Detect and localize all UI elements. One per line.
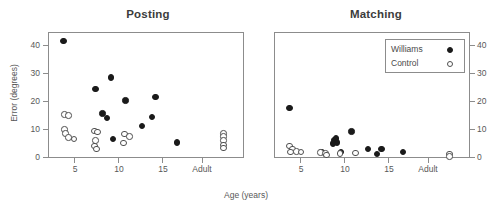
data-point-williams-matching bbox=[286, 105, 293, 112]
data-point-williams-matching bbox=[330, 140, 337, 147]
ytick-mark-20-posting bbox=[43, 101, 48, 102]
data-point-williams-posting bbox=[174, 139, 181, 146]
legend-marker-open-circle-icon bbox=[447, 61, 453, 67]
ytick-label-40-matching: 40 bbox=[477, 40, 498, 50]
xtick-label-15-matching: 15 bbox=[369, 164, 409, 174]
xtick-label-10-posting: 10 bbox=[99, 164, 139, 174]
ytick-mark-10-matching bbox=[470, 129, 475, 130]
legend: Williams Control bbox=[385, 39, 465, 73]
data-point-williams-matching bbox=[348, 128, 355, 135]
plot-frame-posting bbox=[48, 32, 244, 158]
panel-title-posting: Posting bbox=[68, 8, 228, 20]
xtick-label-adult-posting: Adult bbox=[182, 164, 222, 174]
ytick-label-0-matching: 0 bbox=[477, 152, 498, 162]
xtick-mark-5-matching bbox=[300, 158, 301, 163]
data-point-williams-matching bbox=[365, 146, 372, 153]
data-point-williams-posting bbox=[152, 94, 159, 101]
ytick-mark-30-posting bbox=[43, 73, 48, 74]
data-point-williams-posting bbox=[122, 97, 129, 104]
xtick-mark-15-posting bbox=[162, 158, 163, 163]
data-point-williams-posting bbox=[92, 86, 99, 93]
ytick-mark-0-posting bbox=[43, 157, 48, 158]
data-point-williams-posting bbox=[60, 38, 67, 45]
data-point-control-matching bbox=[323, 152, 330, 159]
xtick-label-5-posting: 5 bbox=[55, 164, 95, 174]
data-point-control-matching bbox=[446, 153, 453, 160]
ytick-label-10-posting: 10 bbox=[18, 124, 40, 134]
data-point-control-posting bbox=[126, 133, 133, 140]
xtick-label-15-posting: 15 bbox=[143, 164, 183, 174]
ytick-label-20-posting: 20 bbox=[18, 96, 40, 106]
x-axis-label: Age (years) bbox=[196, 190, 296, 200]
xtick-mark-5-posting bbox=[74, 158, 75, 163]
ytick-label-20-matching: 20 bbox=[477, 96, 498, 106]
ytick-mark-20-matching bbox=[470, 101, 475, 102]
ytick-mark-30-matching bbox=[470, 73, 475, 74]
xtick-label-adult-matching: Adult bbox=[408, 164, 448, 174]
data-point-williams-posting bbox=[139, 123, 146, 130]
legend-entry-control: Control bbox=[391, 57, 461, 71]
legend-label-control: Control bbox=[391, 58, 418, 68]
data-point-control-posting bbox=[120, 140, 127, 147]
xtick-label-5-matching: 5 bbox=[281, 164, 321, 174]
data-point-control-posting bbox=[94, 129, 101, 136]
xtick-mark-10-posting bbox=[118, 158, 119, 163]
data-point-control-posting bbox=[93, 146, 100, 153]
legend-entry-williams: Williams bbox=[391, 43, 461, 57]
ytick-mark-0-matching bbox=[470, 157, 475, 158]
ytick-mark-40-posting bbox=[43, 45, 48, 46]
xtick-label-10-matching: 10 bbox=[325, 164, 365, 174]
ytick-mark-40-matching bbox=[470, 45, 475, 46]
data-point-control-matching bbox=[337, 150, 344, 157]
xtick-mark-10-matching bbox=[344, 158, 345, 163]
data-point-williams-posting bbox=[108, 74, 115, 81]
data-point-control-posting bbox=[220, 145, 227, 152]
xtick-mark-adult-posting bbox=[202, 158, 203, 163]
data-point-control-posting bbox=[65, 112, 72, 119]
legend-label-williams: Williams bbox=[391, 44, 423, 54]
ytick-label-0-posting: 0 bbox=[18, 152, 40, 162]
data-point-williams-matching bbox=[378, 146, 385, 153]
panel-title-matching: Matching bbox=[296, 8, 456, 20]
legend-marker-filled-circle-icon bbox=[447, 47, 453, 53]
xtick-mark-adult-matching bbox=[428, 158, 429, 163]
data-point-control-matching bbox=[352, 150, 359, 157]
figure-container: Posting Matching Error (degrees) Age (ye… bbox=[0, 0, 498, 210]
ytick-label-40-posting: 40 bbox=[18, 40, 40, 50]
xtick-mark-15-matching bbox=[388, 158, 389, 163]
ytick-mark-10-posting bbox=[43, 129, 48, 130]
ytick-label-10-matching: 10 bbox=[477, 124, 498, 134]
ytick-label-30-matching: 30 bbox=[477, 68, 498, 78]
ytick-label-30-posting: 30 bbox=[18, 68, 40, 78]
